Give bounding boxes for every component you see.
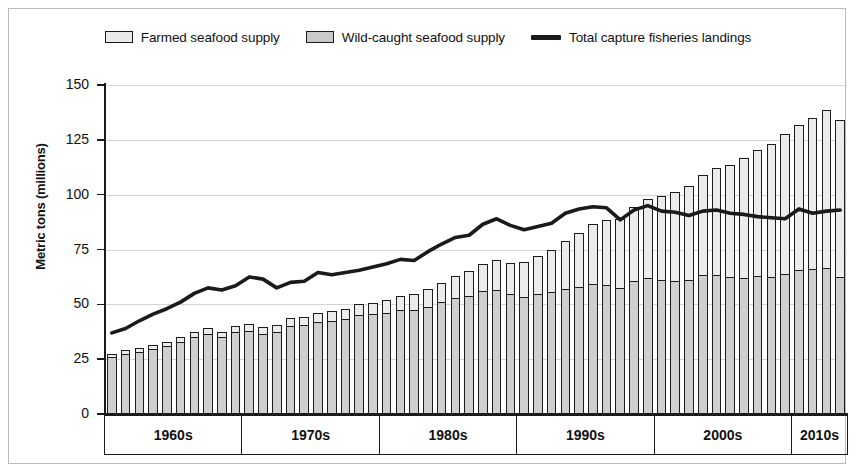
legend-label-line: Total capture fisheries landings	[569, 30, 751, 45]
farmed-swatch-icon	[105, 31, 133, 43]
line-series-layer	[105, 85, 847, 414]
y-axis-label: 75	[29, 241, 89, 257]
chart-screenshot: Farmed seafood supply Wild-caught seafoo…	[0, 0, 856, 474]
wild-swatch-icon	[306, 31, 334, 43]
x-axis-group-1980s: 1980s	[380, 416, 517, 454]
chart-legend: Farmed seafood supply Wild-caught seafoo…	[9, 23, 847, 51]
legend-label-wild: Wild-caught seafood supply	[342, 30, 505, 45]
legend-label-farmed: Farmed seafood supply	[141, 30, 280, 45]
chart-frame: Farmed seafood supply Wild-caught seafoo…	[8, 8, 846, 464]
y-axis-label: 150	[29, 76, 89, 92]
x-axis-group-1990s: 1990s	[517, 416, 654, 454]
legend-item-farmed: Farmed seafood supply	[105, 30, 280, 45]
y-axis-label: 0	[29, 405, 89, 421]
y-axis-label: 125	[29, 131, 89, 147]
total-capture-line	[112, 206, 840, 333]
x-axis-group-1970s: 1970s	[242, 416, 379, 454]
line-swatch-icon	[531, 35, 561, 40]
line-series-svg	[105, 85, 847, 414]
legend-item-line: Total capture fisheries landings	[531, 30, 751, 45]
legend-item-wild: Wild-caught seafood supply	[306, 30, 505, 45]
x-axis-decade-band: 1960s1970s1980s1990s2000s2010s	[104, 415, 848, 455]
y-axis-title: Metric tons (millions)	[33, 92, 48, 322]
y-axis-label: 25	[29, 350, 89, 366]
y-axis-label: 50	[29, 295, 89, 311]
x-axis-group-2010s: 2010s	[792, 416, 847, 454]
x-axis-group-2000s: 2000s	[655, 416, 792, 454]
x-axis-group-1960s: 1960s	[105, 416, 242, 454]
y-axis-label: 100	[29, 186, 89, 202]
